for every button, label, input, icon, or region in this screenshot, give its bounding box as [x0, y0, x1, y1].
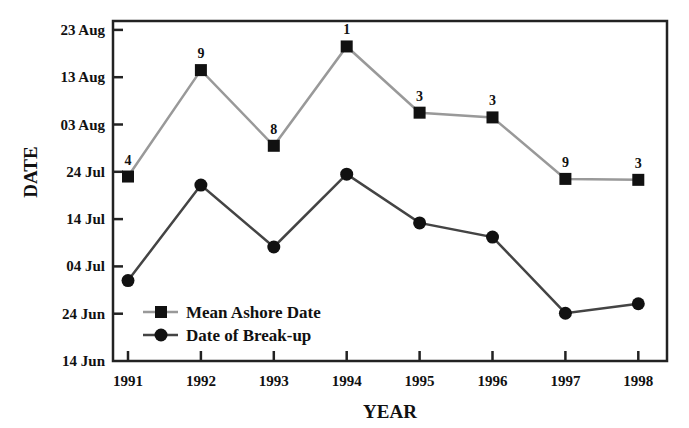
circle-marker-icon — [122, 274, 135, 287]
square-marker-icon — [632, 174, 644, 186]
y-tick-label: 24 Jun — [62, 306, 106, 322]
circle-marker-icon — [155, 329, 168, 342]
line-chart: 14 Jun24 Jun04 Jul14 Jul24 Jul03 Aug13 A… — [0, 0, 689, 428]
circle-marker-icon — [340, 168, 353, 181]
y-tick-label: 14 Jun — [62, 353, 106, 369]
series-layer: 49813393 — [122, 22, 645, 319]
x-tick-label: 1991 — [113, 373, 143, 389]
legend-item-mean-ashore: Mean Ashore Date — [143, 303, 321, 322]
series-line — [128, 174, 638, 313]
circle-marker-icon — [413, 216, 426, 229]
x-axis: 19911992199319941995199619971998 — [113, 351, 653, 389]
x-tick-label: 1997 — [550, 373, 581, 389]
y-tick-label: 23 Aug — [60, 22, 105, 38]
sample-count-label: 3 — [635, 156, 642, 171]
y-tick-label: 24 Jul — [66, 164, 105, 180]
circle-marker-icon — [632, 297, 645, 310]
x-axis-title: YEAR — [363, 401, 417, 422]
y-tick-label: 14 Jul — [66, 211, 105, 227]
legend-label: Date of Break-up — [186, 326, 311, 345]
circle-marker-icon — [194, 179, 207, 192]
y-tick-label: 13 Aug — [60, 69, 105, 85]
legend: Mean Ashore Date Date of Break-up — [143, 303, 321, 345]
circle-marker-icon — [486, 231, 499, 244]
square-marker-icon — [487, 111, 499, 123]
series-mean-ashore-date: 49813393 — [122, 22, 644, 185]
sample-count-label: 3 — [489, 93, 496, 108]
x-tick-label: 1996 — [478, 373, 509, 389]
sample-count-label: 8 — [270, 122, 277, 137]
x-tick-label: 1993 — [259, 373, 289, 389]
x-tick-label: 1998 — [623, 373, 653, 389]
circle-marker-icon — [267, 241, 280, 254]
sample-count-label: 9 — [197, 46, 204, 61]
square-marker-icon — [195, 64, 207, 76]
sample-count-label: 1 — [343, 22, 350, 37]
y-tick-label: 04 Jul — [66, 258, 105, 274]
sample-count-label: 4 — [125, 153, 132, 168]
y-tick-label: 03 Aug — [60, 117, 105, 133]
square-marker-icon — [559, 173, 571, 185]
sample-count-label: 9 — [562, 155, 569, 170]
x-tick-label: 1992 — [186, 373, 216, 389]
square-marker-icon — [155, 306, 167, 318]
x-tick-label: 1995 — [405, 373, 435, 389]
circle-marker-icon — [559, 307, 572, 320]
legend-item-break-up: Date of Break-up — [143, 326, 311, 345]
sample-count-label: 3 — [416, 89, 423, 104]
square-marker-icon — [341, 40, 353, 52]
x-tick-label: 1994 — [332, 373, 363, 389]
square-marker-icon — [414, 107, 426, 119]
square-marker-icon — [122, 171, 134, 183]
y-axis-title: DATE — [20, 146, 41, 197]
series-date-of-break-up — [122, 168, 645, 320]
square-marker-icon — [268, 140, 280, 152]
legend-label: Mean Ashore Date — [186, 303, 321, 322]
